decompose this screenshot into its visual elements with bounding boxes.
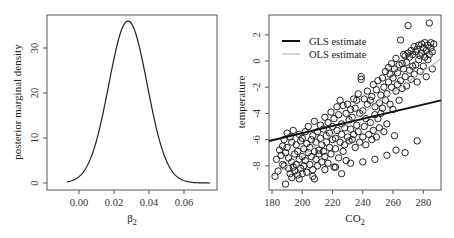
x-tick-label: 0.00	[70, 197, 88, 208]
data-point	[420, 63, 426, 69]
data-point	[384, 152, 390, 158]
data-point	[363, 142, 369, 148]
data-point	[426, 20, 432, 26]
x-tick-label: 0.02	[105, 197, 123, 208]
y-tick-label: 0	[29, 180, 40, 185]
data-point	[354, 122, 360, 128]
data-point	[332, 146, 338, 152]
data-point	[338, 171, 344, 177]
data-point	[311, 118, 317, 124]
data-point	[334, 104, 340, 110]
x-tick-label: 180	[264, 197, 280, 208]
x-tick-label: 200	[294, 197, 310, 208]
data-point	[331, 164, 337, 170]
data-point	[282, 181, 288, 187]
data-point	[384, 121, 390, 127]
y-tick-label: 10	[29, 133, 40, 144]
scatter-x-axis: 180200220240260280	[264, 190, 431, 208]
data-point	[393, 55, 399, 61]
y-tick-label: -4	[251, 108, 262, 117]
data-point	[361, 123, 367, 129]
data-point	[396, 97, 402, 103]
data-point	[402, 150, 408, 156]
data-point	[414, 138, 420, 144]
data-point	[338, 131, 344, 137]
data-point	[328, 109, 334, 115]
y-tick-label: 0	[251, 58, 262, 63]
data-point	[391, 133, 397, 139]
data-point	[326, 144, 332, 150]
data-point	[360, 134, 366, 140]
ols-estimate-line	[269, 59, 441, 179]
legend-label: GLS estimate	[309, 36, 367, 47]
legend-entry: GLS estimate	[282, 36, 367, 47]
data-point	[402, 74, 408, 80]
data-point	[304, 169, 310, 175]
data-point	[397, 37, 403, 43]
data-point	[317, 135, 323, 141]
y-tick-label: -6	[251, 135, 262, 144]
data-point	[416, 57, 422, 63]
y-tick-label: -8	[251, 161, 262, 170]
density-plot-frame	[47, 15, 217, 190]
density-x-axis-label: β2	[127, 212, 137, 227]
data-point	[370, 127, 376, 133]
data-point	[335, 155, 341, 161]
legend: GLS estimateOLS estimate	[282, 36, 367, 60]
data-point	[335, 112, 341, 118]
density-curve	[67, 21, 211, 183]
gls-estimate-line	[269, 100, 441, 141]
data-point	[381, 84, 387, 90]
data-point	[340, 102, 346, 108]
data-point	[352, 105, 358, 111]
scatter-x-axis-label: CO2	[345, 212, 364, 227]
x-tick-label: 220	[325, 197, 341, 208]
data-point	[355, 91, 361, 97]
data-point	[289, 174, 295, 180]
y-tick-label: -2	[251, 83, 262, 92]
x-tick-label: 280	[415, 197, 431, 208]
data-point	[373, 87, 379, 93]
y-tick-label: 20	[29, 88, 40, 99]
legend-entry: OLS estimate	[282, 49, 367, 60]
data-point	[364, 88, 370, 94]
density-x-axis: 0.000.020.040.06	[70, 190, 193, 208]
data-point	[393, 147, 399, 153]
y-tick-label: 2	[251, 32, 262, 37]
y-tick-label: 30	[29, 43, 40, 54]
legend-label: OLS estimate	[309, 49, 367, 60]
data-point	[405, 22, 411, 28]
data-point	[325, 160, 331, 166]
x-tick-label: 0.06	[175, 197, 193, 208]
data-point	[352, 144, 358, 150]
data-point	[367, 119, 373, 125]
x-tick-label: 240	[355, 197, 371, 208]
data-point	[322, 167, 328, 173]
data-point	[340, 148, 346, 154]
density-y-axis: 0102030	[29, 43, 47, 186]
data-point	[381, 129, 387, 135]
density-plot-panel: 0.000.020.040.06 0102030 β2 posterior ma…	[11, 15, 217, 227]
density-y-axis-label: posterior marginal density	[11, 44, 23, 160]
x-tick-label: 260	[385, 197, 401, 208]
data-point	[378, 92, 384, 98]
data-point	[423, 74, 429, 80]
data-point	[360, 159, 366, 165]
scatter-y-axis: -8-6-4-202	[251, 32, 269, 170]
data-point	[372, 156, 378, 162]
data-point	[332, 164, 338, 170]
chart-figure: 0.000.020.040.06 0102030 β2 posterior ma…	[0, 0, 454, 238]
data-point	[369, 93, 375, 99]
data-point	[328, 151, 334, 157]
scatter-plot-panel: 180200220240260280 -8-6-4-202 CO2 temper…	[235, 15, 441, 227]
data-point	[290, 127, 296, 133]
x-tick-label: 0.04	[140, 197, 159, 208]
data-point	[305, 123, 311, 129]
scatter-y-axis-label: temperature	[235, 76, 247, 129]
data-point	[347, 106, 353, 112]
data-point	[414, 79, 420, 85]
